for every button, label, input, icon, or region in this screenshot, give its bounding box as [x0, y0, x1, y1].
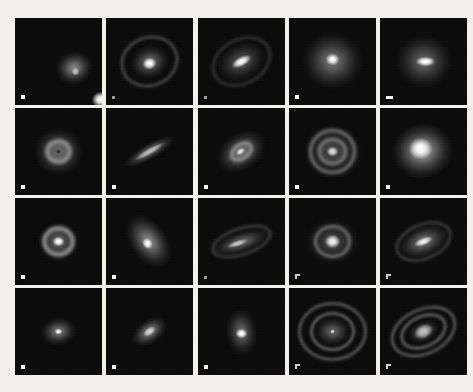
- galaxy-image: [289, 288, 376, 375]
- scale-marker: [204, 276, 207, 279]
- galaxy-image: [106, 198, 193, 285]
- galaxy-image: [106, 18, 193, 105]
- galaxy-panel: [289, 108, 376, 195]
- galaxy-image: [198, 18, 285, 105]
- galaxy-image: [15, 198, 102, 285]
- galaxy-panel: [198, 288, 285, 375]
- galaxy-image: [380, 198, 467, 285]
- scale-marker: [112, 185, 116, 189]
- scale-marker: [21, 95, 25, 99]
- scale-marker: [386, 364, 391, 369]
- galaxy-image: [15, 108, 102, 195]
- panel-grid: [15, 18, 467, 375]
- scale-marker: [21, 275, 25, 279]
- galaxy-image-grid-figure: [0, 0, 473, 392]
- galaxy-image: [106, 108, 193, 195]
- scale-marker: [204, 96, 207, 99]
- galaxy-image: [15, 18, 102, 105]
- galaxy-image: [289, 18, 376, 105]
- galaxy-panel: [380, 18, 467, 105]
- galaxy-image: [380, 18, 467, 105]
- galaxy-panel: [15, 198, 102, 285]
- galaxy-panel: [198, 108, 285, 195]
- scale-marker: [386, 274, 391, 279]
- galaxy-panel: [15, 108, 102, 195]
- scale-marker: [21, 185, 25, 189]
- galaxy-image: [15, 288, 102, 375]
- galaxy-panel: [106, 288, 193, 375]
- galaxy-panel: [106, 198, 193, 285]
- scale-marker: [295, 274, 300, 279]
- galaxy-image: [198, 288, 285, 375]
- galaxy-image: [198, 198, 285, 285]
- scale-marker: [295, 364, 300, 369]
- galaxy-image: [289, 198, 376, 285]
- galaxy-panel: [106, 18, 193, 105]
- galaxy-panel: [289, 18, 376, 105]
- scale-marker: [295, 95, 299, 99]
- galaxy-panel: [380, 198, 467, 285]
- scale-marker: [295, 185, 299, 189]
- galaxy-image: [380, 288, 467, 375]
- galaxy-panel: [380, 108, 467, 195]
- galaxy-panel: [15, 18, 102, 105]
- galaxy-panel: [106, 108, 193, 195]
- galaxy-image: [380, 108, 467, 195]
- scale-marker: [386, 96, 393, 99]
- scale-marker: [112, 96, 115, 99]
- galaxy-image: [106, 288, 193, 375]
- scale-marker: [112, 275, 116, 279]
- galaxy-panel: [380, 288, 467, 375]
- scale-marker: [204, 365, 208, 369]
- galaxy-image: [289, 108, 376, 195]
- scale-marker: [204, 185, 208, 189]
- scale-marker: [386, 185, 390, 189]
- galaxy-panel: [198, 18, 285, 105]
- galaxy-panel: [289, 288, 376, 375]
- galaxy-panel: [15, 288, 102, 375]
- scale-marker: [21, 365, 25, 369]
- galaxy-panel: [198, 198, 285, 285]
- galaxy-image: [198, 108, 285, 195]
- scale-marker: [112, 365, 116, 369]
- galaxy-panel: [289, 198, 376, 285]
